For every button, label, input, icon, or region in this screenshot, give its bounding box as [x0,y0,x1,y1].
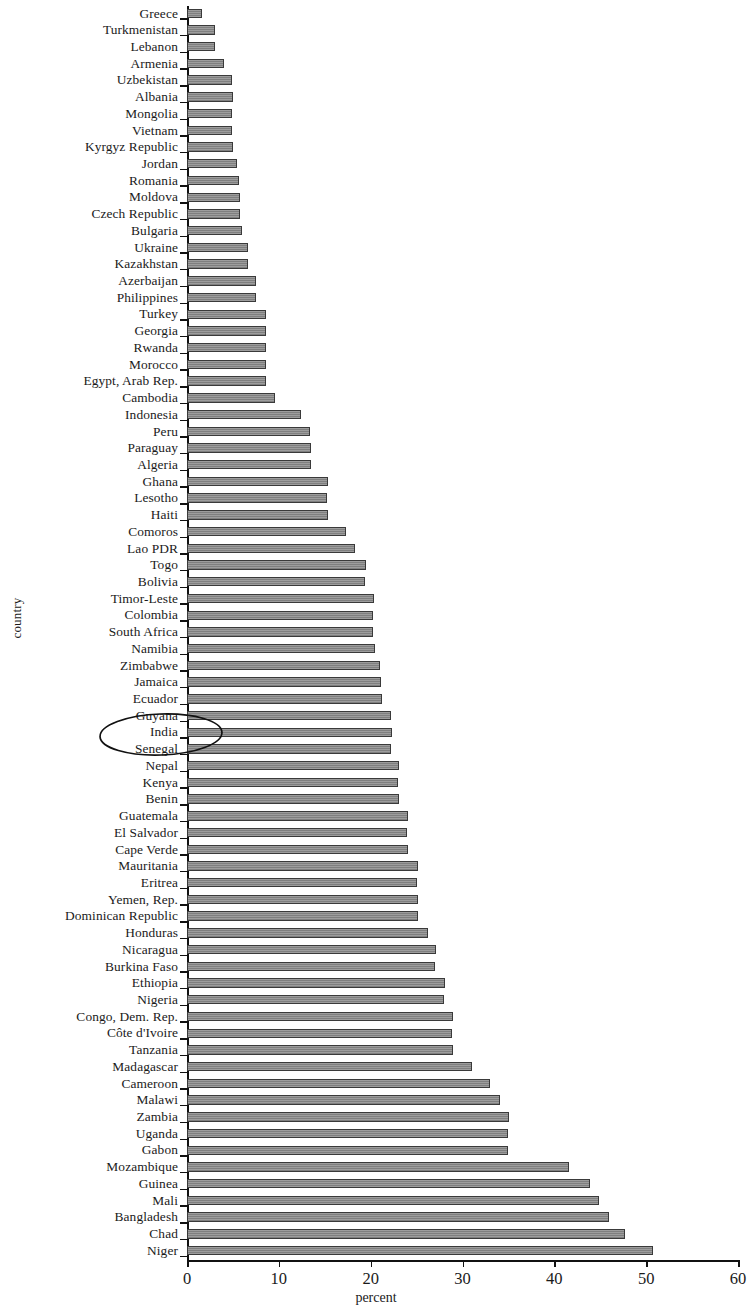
y-axis-tick [180,620,187,621]
bar-row: Mauritania [187,859,738,875]
bar [187,895,418,904]
bar [187,1179,590,1188]
category-label: Cape Verde [115,842,178,858]
bar-row: Gabon [187,1143,738,1159]
category-label: Gabon [142,1142,178,1158]
category-label: Zambia [137,1109,179,1125]
bar-row: Lebanon [187,39,738,55]
bar-row: Mali [187,1193,738,1209]
bar [187,193,240,202]
bar-row: Lesotho [187,491,738,507]
y-axis-tick [180,152,187,153]
y-axis-tick [180,269,187,270]
y-axis-tick [180,938,187,939]
bar [187,360,266,369]
x-axis-tick-label: 20 [362,1269,379,1289]
category-label: Bangladesh [115,1209,178,1225]
bar-row: Rwanda [187,340,738,356]
x-axis-tick [463,1260,465,1267]
bar-row: Vietnam [187,123,738,139]
bar-row: Turkmenistan [187,23,738,39]
bar-rows: GreeceTurkmenistanLebanonArmeniaUzbekist… [187,6,738,1260]
bar [187,761,399,770]
y-axis-tick [180,169,187,170]
bar [187,1045,453,1054]
bar-row: Comoros [187,524,738,540]
y-axis-tick [180,721,187,722]
y-axis-tick [180,219,187,220]
y-axis-tick [180,503,187,504]
bar [187,109,232,118]
bar-row: Malawi [187,1093,738,1109]
category-label: Turkmenistan [103,22,178,38]
y-axis-tick [180,838,187,839]
bar-row: Côte d'Ivoire [187,1026,738,1042]
y-axis-tick [180,921,187,922]
bar-row: Bangladesh [187,1210,738,1226]
y-axis-tick [180,704,187,705]
category-label: South Africa [109,624,178,640]
category-label: Côte d'Ivoire [107,1025,178,1041]
y-axis-tick [180,603,187,604]
bar [187,25,215,34]
bar-row: Ukraine [187,240,738,256]
category-label: Timor-Leste [111,591,178,607]
category-label: Morocco [129,357,178,373]
y-axis-tick [180,670,187,671]
y-axis-tick [180,553,187,554]
bar [187,376,266,385]
bar-row: Armenia [187,56,738,72]
y-axis-tick [180,135,187,136]
bar-row: Philippines [187,290,738,306]
y-axis-tick [180,303,187,304]
bar-row: Dominican Republic [187,909,738,925]
bar-row: Mongolia [187,106,738,122]
bar [187,560,366,569]
bar [187,945,436,954]
bar-row: Czech Republic [187,207,738,223]
y-axis-tick [180,1139,187,1140]
category-label: Greece [139,6,178,22]
bar-row: Ecuador [187,692,738,708]
bar [187,1062,472,1071]
bar [187,75,232,84]
category-label: Bolivia [138,574,178,590]
bar [187,1196,599,1205]
category-label: Philippines [117,290,178,306]
bar-row: Chad [187,1227,738,1243]
bar-row: Guinea [187,1176,738,1192]
y-axis-tick [180,403,187,404]
category-label: Cambodia [122,390,178,406]
bar-row: South Africa [187,625,738,641]
bar-row: Togo [187,558,738,574]
bar-row: Ethiopia [187,976,738,992]
bar [187,694,382,703]
bar-row: Jordan [187,156,738,172]
bar-row: Kyrgyz Republic [187,140,738,156]
category-label: Mongolia [125,106,178,122]
y-axis-tick [180,185,187,186]
bar [187,811,408,820]
bar-row: Guyana [187,708,738,724]
category-label: Niger [147,1243,178,1259]
category-label: Ukraine [134,240,178,256]
y-axis-tick [180,252,187,253]
category-label: Kenya [143,775,178,791]
category-label: Yemen, Rep. [108,892,178,908]
category-label: Lao PDR [127,541,178,557]
bar-row: Azerbaijan [187,274,738,290]
bar-row: Ghana [187,474,738,490]
y-axis-tick [180,52,187,53]
y-axis-tick [180,1088,187,1089]
category-label: Togo [150,557,178,573]
bar [187,928,428,937]
bar-row: Uganda [187,1126,738,1142]
y-axis-tick [180,386,187,387]
category-label: Jamaica [134,674,178,690]
y-axis-tick [180,420,187,421]
category-label: Moldova [129,189,178,205]
y-axis-tick [180,18,187,19]
y-axis-tick [180,1038,187,1039]
bar-row: Bulgaria [187,223,738,239]
y-axis-tick [180,1222,187,1223]
